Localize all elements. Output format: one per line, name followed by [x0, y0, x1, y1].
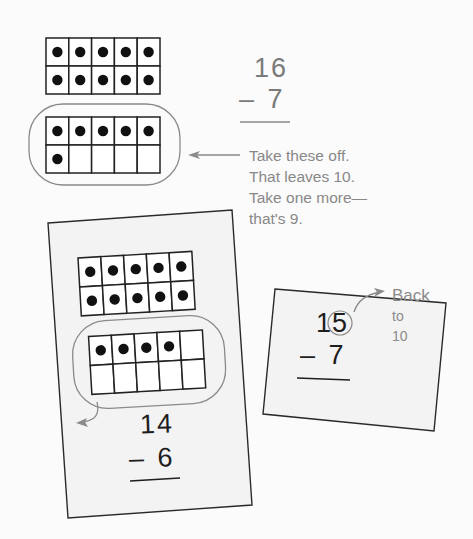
right-subtraction: – 7 — [300, 342, 344, 369]
note-line: 10 — [392, 326, 430, 346]
right-minuend: 15 — [316, 310, 347, 337]
note-line: Back — [392, 286, 430, 306]
tens-digit: 1 — [316, 308, 331, 338]
circled-ones-digit: 5 — [332, 308, 347, 338]
note-line: to — [392, 306, 430, 326]
minus-sign: – — [300, 340, 315, 370]
right-subtrahend: 7 — [329, 340, 344, 370]
right-card — [0, 0, 473, 539]
right-note: Back to 10 — [392, 286, 430, 346]
